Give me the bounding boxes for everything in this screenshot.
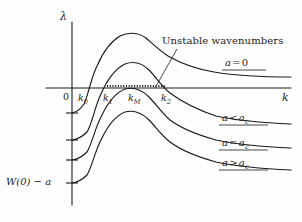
x-axis-label: k [282, 92, 289, 103]
y-axis-label: λ [60, 11, 67, 22]
tick-k1-sub: 1 [109, 98, 113, 106]
curve-label-aeq-rhs-sub: c [245, 143, 249, 151]
figure-canvas: λ k 0 k0 k1 kM k2 W(0) − a Unstable wave… [0, 0, 302, 222]
tick-kM-sub: M [134, 98, 141, 106]
tick-k0-sub: 0 [84, 98, 88, 106]
curve-label-a-equals-0-op: = [231, 57, 242, 68]
curve-label-alt-rhs-sub: c [245, 118, 249, 126]
y-axis-value-label: W(0) − a [6, 177, 51, 187]
tick-label-k2: k2 [161, 93, 171, 105]
curve-label-agt-op: > [228, 157, 239, 168]
curve-label-a-greater-than-ac: a>ac [222, 158, 249, 171]
curve-label-a-equals-ac: a=ac [222, 138, 249, 151]
curve-label-a-less-than-ac: a<ac [222, 113, 249, 126]
plot-svg [0, 0, 302, 222]
curve-label-agt-rhs-sub: c [245, 163, 249, 171]
curve-label-a-equals-0-rhs: 0 [242, 57, 249, 68]
dispersion-curves [72, 33, 291, 183]
tick-k2-sub: 2 [167, 98, 171, 106]
curve-label-alt-op: < [228, 112, 239, 123]
curve-label-aeq-op: = [228, 137, 239, 148]
y-axis-value-text: W(0) − a [6, 176, 51, 187]
tick-label-k1: k1 [103, 93, 113, 105]
axes-group [46, 22, 291, 205]
curve-label-a-equals-0: a=0 [225, 58, 248, 68]
origin-label: 0 [63, 92, 69, 102]
tick-label-kM: kM [128, 93, 140, 105]
tick-label-k0: k0 [78, 93, 88, 105]
unstable-wavenumbers-annotation: Unstable wavenumbers [162, 36, 283, 46]
